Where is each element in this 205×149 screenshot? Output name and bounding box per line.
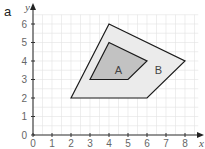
y-axis-label: y <box>24 1 30 13</box>
y-tick-label: 1 <box>21 111 27 122</box>
x-tick-label: 4 <box>106 138 112 149</box>
x-tick-label: 1 <box>49 138 55 149</box>
y-tick-label: 4 <box>21 56 27 67</box>
diagram: A B 0123456780123456 a y x <box>0 0 205 149</box>
x-tick-label: 7 <box>163 138 169 149</box>
x-tick-label: 6 <box>144 138 150 149</box>
x-axis-label: x <box>198 137 204 149</box>
y-tick-label: 2 <box>21 93 27 104</box>
y-tick-label: 6 <box>21 19 27 30</box>
x-tick-label: 2 <box>68 138 74 149</box>
y-tick-label: 0 <box>21 130 27 141</box>
x-tick-label: 0 <box>30 138 36 149</box>
y-tick-label: 3 <box>21 74 27 85</box>
x-tick-label: 8 <box>182 138 188 149</box>
part-label: a <box>4 4 12 19</box>
shape-a-label: A <box>115 64 123 76</box>
x-tick-label: 3 <box>87 138 93 149</box>
shape-b-label: B <box>155 64 162 76</box>
x-tick-label: 5 <box>125 138 131 149</box>
y-axis-arrow-icon <box>30 3 36 10</box>
y-tick-label: 5 <box>21 37 27 48</box>
